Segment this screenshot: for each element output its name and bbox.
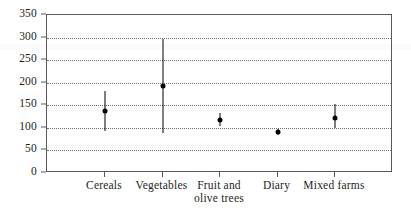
y-axis: 350300250200150100500: [0, 0, 46, 209]
gridline: [47, 60, 391, 61]
data-point-marker: [218, 117, 223, 122]
x-axis-tick-mark: [162, 172, 163, 177]
chart-container: 350300250200150100500 CerealsVegetablesF…: [0, 0, 411, 209]
x-axis-tick-mark: [104, 172, 105, 177]
y-axis-tick-label: 200: [19, 76, 37, 88]
y-axis-tick-label: 150: [19, 99, 37, 111]
plot-area: [46, 14, 392, 172]
data-point-marker: [103, 108, 108, 113]
x-axis-tick-mark: [277, 172, 278, 177]
y-axis-tick-label: 50: [25, 144, 37, 156]
y-axis-tick-label: 300: [19, 31, 37, 43]
x-axis-tick-label: Vegetables: [136, 179, 188, 192]
gridline: [47, 105, 391, 106]
gridline: [47, 128, 391, 129]
x-axis-tick-mark: [334, 172, 335, 177]
gridline: [47, 38, 391, 39]
gridline: [47, 83, 391, 84]
x-axis-tick-label: Fruit and olive trees: [194, 179, 244, 204]
y-axis-tick-label: 350: [19, 8, 37, 20]
data-point-marker: [275, 129, 280, 134]
y-axis-tick-label: 100: [19, 121, 37, 133]
gridline: [47, 150, 391, 151]
x-axis-tick-label: Mixed farms: [303, 179, 364, 192]
data-point-marker: [160, 84, 165, 89]
data-point-marker: [333, 116, 338, 121]
x-axis-tick-label: Cereals: [86, 179, 122, 192]
x-axis-tick-label: Diary: [263, 179, 290, 192]
x-axis-tick-mark: [219, 172, 220, 177]
y-axis-tick-label: 0: [31, 166, 37, 178]
y-axis-tick-label: 250: [19, 53, 37, 65]
